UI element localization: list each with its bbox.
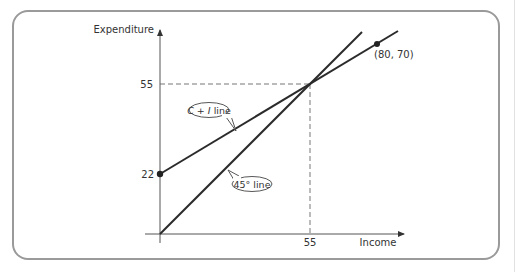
point-80-70-label: (80, 70) [374, 49, 414, 60]
line-c-plus-i [160, 31, 398, 174]
x-axis-label: Income [360, 237, 397, 248]
point-80-70 [374, 41, 380, 47]
callout-c-plus-i: C + I line [187, 103, 236, 132]
callout-45-degree: 45° line [228, 170, 272, 192]
chart-canvas: Expenditure Income 55 22 55 (80, 70) C +… [0, 0, 517, 272]
y-axis-label: Expenditure [93, 24, 154, 35]
tick-x-55: 55 [304, 237, 317, 248]
callout-c-plus-i-text: C + I line [187, 105, 231, 116]
line-45-degree [160, 32, 362, 234]
tick-y-22: 22 [141, 169, 154, 180]
tick-y-55: 55 [140, 79, 153, 90]
callout-45-degree-text: 45° line [233, 179, 270, 190]
point-intercept-22 [157, 171, 163, 177]
